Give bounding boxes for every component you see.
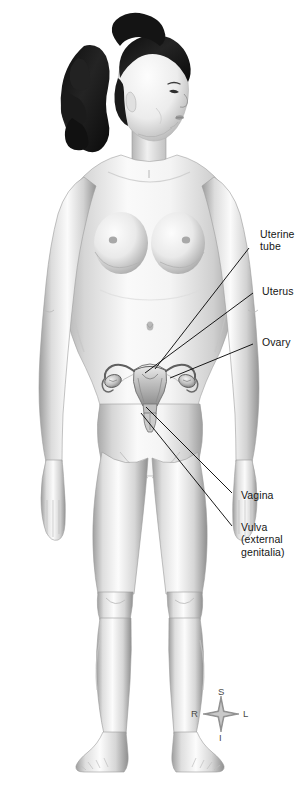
label-uterine-tube: Uterine tube (260, 228, 295, 253)
knee-left (97, 592, 133, 620)
compass-label-inferior: I (219, 732, 222, 743)
label-uterus-line1: Uterus (262, 285, 294, 297)
label-uterus: Uterus (262, 285, 294, 297)
thigh-right (152, 452, 207, 594)
compass-label-right: R (191, 708, 198, 719)
breast-right (151, 212, 205, 274)
label-uterine-tube-line2: tube (260, 240, 295, 252)
breast-left (94, 212, 148, 274)
head (61, 13, 191, 152)
label-uterine-tube-line1: Uterine (260, 228, 295, 240)
label-vulva-line3: genitalia) (241, 546, 285, 558)
label-vagina: Vagina (241, 489, 274, 501)
label-vulva-line1: Vulva (241, 521, 285, 533)
shin-right (169, 618, 204, 734)
cervix (143, 404, 157, 414)
anatomy-figure: Uterine tube Uterus Ovary Vagina Vulva (… (0, 0, 306, 790)
compass-star-highlight (209, 702, 233, 726)
thigh-left (93, 452, 148, 594)
foot-right (172, 732, 224, 772)
label-vulva-line2: (external (241, 533, 285, 545)
body-illustration (39, 13, 259, 772)
label-vulva: Vulva (external genitalia) (241, 521, 285, 558)
label-vagina-line1: Vagina (241, 489, 274, 501)
foot-left (76, 732, 128, 772)
compass-label-left: L (243, 708, 248, 719)
shin-left (96, 618, 131, 734)
label-ovary-line1: Ovary (262, 336, 291, 348)
label-ovary: Ovary (262, 336, 291, 348)
figure-illustration (0, 0, 306, 790)
compass-label-superior: S (218, 686, 224, 697)
nipple-right (182, 236, 190, 243)
knee-right (167, 592, 203, 620)
nipple-left (109, 236, 117, 243)
orientation-compass (203, 696, 239, 732)
